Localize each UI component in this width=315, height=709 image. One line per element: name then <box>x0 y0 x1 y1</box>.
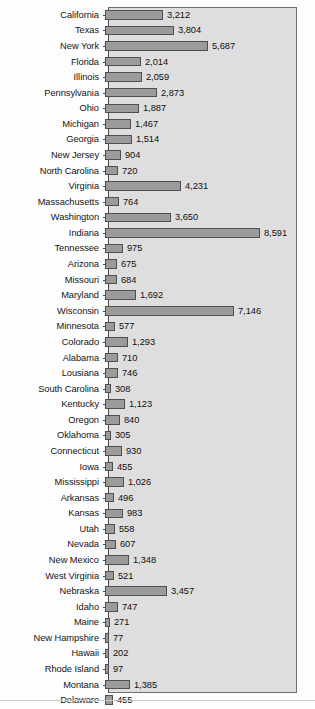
bar <box>105 337 128 347</box>
category-label: Wisconsin <box>0 306 104 316</box>
bar-value-label: 720 <box>118 166 137 176</box>
bar <box>105 540 116 550</box>
bar <box>105 602 118 612</box>
bar-value-label: 4,231 <box>181 181 208 191</box>
bar-row: Colorado1,293 <box>0 334 315 350</box>
category-label: Minnesota <box>0 321 104 331</box>
bar-value-label: 3,212 <box>163 10 190 20</box>
bar-row: Maryland1,692 <box>0 287 315 303</box>
category-label: Illinois <box>0 72 104 82</box>
category-label: New Mexico <box>0 555 104 565</box>
bar-zone: 455 <box>104 459 315 475</box>
bar-value-label: 5,687 <box>208 41 235 51</box>
bar-zone: 1,887 <box>104 100 315 116</box>
bar-row: Indiana8,591 <box>0 225 315 241</box>
bar-row: North Carolina720 <box>0 163 315 179</box>
bar-zone: 983 <box>104 506 315 522</box>
bar-value-label: 746 <box>118 368 137 378</box>
category-label: Alabama <box>0 353 104 363</box>
bar-zone: 558 <box>104 521 315 537</box>
bar-zone: 2,873 <box>104 85 315 101</box>
bar-row: California3,212 <box>0 7 315 23</box>
category-label: Oklahoma <box>0 430 104 440</box>
bar-value-label: 305 <box>111 430 130 440</box>
bar <box>105 10 163 20</box>
bar <box>105 477 124 487</box>
bar <box>105 181 181 191</box>
bar-zone: 675 <box>104 256 315 272</box>
bar-value-label: 202 <box>109 648 128 658</box>
bar-row: Arkansas496 <box>0 490 315 506</box>
bar-row: Connecticut930 <box>0 443 315 459</box>
bar-zone: 4,231 <box>104 178 315 194</box>
bar <box>105 275 117 285</box>
bar <box>105 213 171 223</box>
bar-value-label: 97 <box>109 664 123 674</box>
bar-value-label: 1,514 <box>132 134 159 144</box>
bar-value-label: 607 <box>116 539 135 549</box>
category-label: Maryland <box>0 290 104 300</box>
bar-value-label: 1,467 <box>131 119 158 129</box>
bar-row: Virginia4,231 <box>0 178 315 194</box>
bar-row: Maine271 <box>0 615 315 631</box>
bar <box>105 244 123 254</box>
bar-zone: 1,692 <box>104 287 315 303</box>
bar-row: New Hampshire77 <box>0 630 315 646</box>
bar <box>105 88 157 98</box>
bar-zone: 1,514 <box>104 132 315 148</box>
category-label: Hawaii <box>0 648 104 658</box>
category-label: Washington <box>0 212 104 222</box>
bar <box>105 228 260 238</box>
category-label: New Jersey <box>0 150 104 160</box>
bar-chart-figure: California3,212Texas3,804New York5,687Fl… <box>0 0 315 709</box>
bar-row: Ohio1,887 <box>0 100 315 116</box>
bar-zone: 496 <box>104 490 315 506</box>
bar-value-label: 77 <box>109 633 123 643</box>
bar-value-label: 1,348 <box>129 555 156 565</box>
bar-row: Washington3,650 <box>0 210 315 226</box>
bar-row: Idaho747 <box>0 599 315 615</box>
category-label: Kansas <box>0 508 104 518</box>
bar-row: Rhode Island97 <box>0 661 315 677</box>
bar-zone: 1,385 <box>104 677 315 693</box>
bar-zone: 77 <box>104 630 315 646</box>
category-label: Ohio <box>0 103 104 113</box>
bar <box>105 353 118 363</box>
bar-value-label: 3,804 <box>174 25 201 35</box>
bar-zone: 7,146 <box>104 303 315 319</box>
bar-value-label: 1,026 <box>124 477 151 487</box>
bar <box>105 368 118 378</box>
bar <box>105 555 129 565</box>
bar-value-label: 496 <box>114 493 133 503</box>
bar-row: Iowa455 <box>0 459 315 475</box>
bar-value-label: 764 <box>119 197 138 207</box>
bar-zone: 720 <box>104 163 315 179</box>
bar-zone: 1,293 <box>104 334 315 350</box>
bar-value-label: 521 <box>114 571 133 581</box>
bar-row: Oregon840 <box>0 412 315 428</box>
bottom-divider <box>0 700 315 701</box>
bar-row: New York5,687 <box>0 38 315 54</box>
bar-zone: 8,591 <box>104 225 315 241</box>
bar <box>105 259 117 269</box>
bar-zone: 1,026 <box>104 474 315 490</box>
bar-zone: 1,467 <box>104 116 315 132</box>
bar-value-label: 975 <box>123 243 142 253</box>
bar-value-label: 1,692 <box>136 290 163 300</box>
category-label: Connecticut <box>0 446 104 456</box>
bar-zone: 577 <box>104 319 315 335</box>
bar <box>105 399 125 409</box>
bar-value-label: 308 <box>111 384 130 394</box>
bar <box>105 166 118 176</box>
bar-value-label: 8,591 <box>260 228 287 238</box>
bar-value-label: 747 <box>118 602 137 612</box>
bar-row: Mississippi1,026 <box>0 474 315 490</box>
bar <box>105 290 136 300</box>
bar-zone: 930 <box>104 443 315 459</box>
bar-row: Illinois2,059 <box>0 69 315 85</box>
category-label: Nebraska <box>0 586 104 596</box>
bar <box>105 41 208 51</box>
category-label: Texas <box>0 25 104 35</box>
category-label: Michigan <box>0 119 104 129</box>
bar-zone: 1,123 <box>104 396 315 412</box>
